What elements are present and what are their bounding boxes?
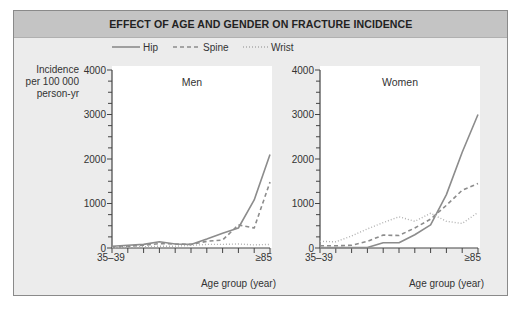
svg-text:Incidence: Incidence xyxy=(36,64,79,75)
legend-spine-label: Spine xyxy=(203,42,229,53)
y-tick-label: 4000 xyxy=(84,65,107,76)
y-tick-label: 2000 xyxy=(84,154,107,165)
women-x-axis-title: Age group (year) xyxy=(409,278,484,289)
panel-men: 01000200030004000Men xyxy=(84,65,272,254)
panel-title: Women xyxy=(382,76,418,88)
y-tick-label: 1000 xyxy=(292,198,315,209)
y-tick-label: 4000 xyxy=(292,65,315,76)
y-tick-label: 2000 xyxy=(292,154,315,165)
y-axis-label: Incidence per 100 000 person-yr xyxy=(26,64,80,99)
legend: Hip Spine Wrist xyxy=(112,42,294,53)
men-x-tick-first: 35–39 xyxy=(97,252,125,263)
y-tick-label: 1000 xyxy=(84,198,107,209)
y-tick-label: 3000 xyxy=(84,109,107,120)
women-x-tick-first: 35–39 xyxy=(305,252,333,263)
men-x-axis-title: Age group (year) xyxy=(201,278,276,289)
y-tick-label: 3000 xyxy=(292,109,315,120)
panel-women: 01000200030004000Women xyxy=(292,65,480,254)
legend-hip-label: Hip xyxy=(143,42,158,53)
women-x-tick-last: ≥85 xyxy=(464,252,481,263)
men-x-tick-last: ≥85 xyxy=(255,252,272,263)
legend-wrist-label: Wrist xyxy=(271,42,294,53)
panel-title: Men xyxy=(182,76,203,88)
chart-canvas: Hip Spine Wrist Incidence per 100 000 pe… xyxy=(0,0,518,309)
plot-area xyxy=(112,66,272,248)
svg-text:person-yr: person-yr xyxy=(37,88,80,99)
svg-text:per 100 000: per 100 000 xyxy=(26,76,80,87)
plot-area xyxy=(320,66,480,248)
